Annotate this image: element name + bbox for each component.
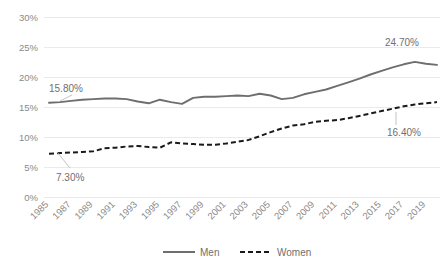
y-tick-15: 15% [19,102,39,113]
chart-canvas: 30% 25% 20% 15% 10% 5% 0% 19851987198919… [0,0,445,268]
x-tick-2017: 2017 [382,199,405,222]
leader-line-women-start [57,152,70,168]
y-tick-10: 10% [19,132,39,143]
women-start-label: 7.30% [56,172,84,183]
y-tick-5: 5% [24,162,38,173]
series-line-women [49,102,437,154]
x-tick-2009: 2009 [294,199,317,222]
legend: Men Women [163,247,311,258]
x-tick-1989: 1989 [72,199,95,222]
series-line-men [49,62,437,104]
x-tick-1987: 1987 [50,199,73,222]
gridlines [44,18,440,198]
legend-label-men: Men [200,247,219,258]
x-tick-2011: 2011 [316,199,338,221]
x-tick-2003: 2003 [227,199,250,222]
y-axis-ticks: 30% 25% 20% 15% 10% 5% 0% [19,12,39,203]
y-tick-20: 20% [19,72,39,83]
legend-label-women: Women [277,247,311,258]
annotation-women-end: 16.40% [387,112,421,138]
y-tick-30: 30% [19,12,39,23]
x-tick-2001: 2001 [205,199,228,222]
x-tick-2007: 2007 [272,199,295,222]
x-tick-2019: 2019 [405,199,428,222]
y-tick-25: 25% [19,42,39,53]
x-tick-2015: 2015 [360,199,383,222]
annotation-men-end: 24.70% [385,37,419,48]
y-tick-0: 0% [24,192,38,203]
x-tick-1999: 1999 [183,199,206,222]
women-end-label: 16.40% [387,127,421,138]
x-tick-1991: 1991 [94,199,117,222]
men-end-label: 24.70% [385,37,419,48]
x-tick-1995: 1995 [139,199,162,222]
annotation-men-start: 15.80% [49,83,83,101]
line-chart: 30% 25% 20% 15% 10% 5% 0% 19851987198919… [0,0,445,268]
men-start-label: 15.80% [49,83,83,94]
x-axis-ticks: 1985198719891991199319951997199920012003… [28,199,428,222]
x-tick-1993: 1993 [116,199,139,222]
x-tick-2013: 2013 [338,199,361,222]
x-tick-2005: 2005 [249,199,272,222]
x-tick-1997: 1997 [161,199,184,222]
